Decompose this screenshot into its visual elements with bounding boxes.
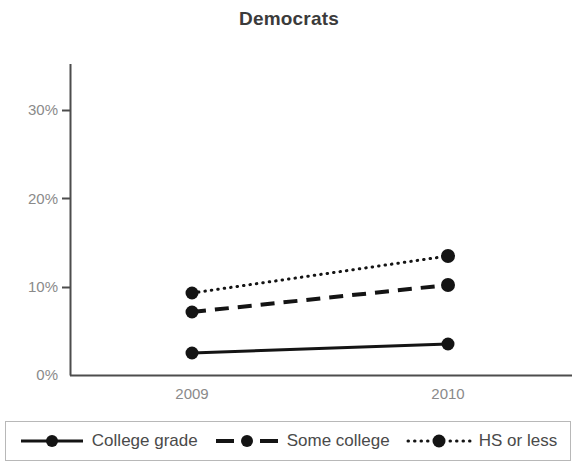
legend-label-college-grade: College grade: [92, 431, 198, 451]
chart-legend: College grade Some college HS or les: [5, 421, 571, 461]
chart-container: Democrats 30% 20% 10% 0% 2009 2010: [0, 0, 578, 469]
x-axis-tick-label-2009: 2009: [147, 385, 237, 402]
data-point-some-college-2009: [186, 306, 199, 319]
x-axis-tick-label-2010: 2010: [403, 385, 493, 402]
data-point-some-college-2010: [441, 278, 455, 292]
legend-item-some-college: Some college: [214, 431, 390, 451]
data-point-college-grade-2009: [186, 347, 199, 360]
legend-label-some-college: Some college: [287, 431, 390, 451]
legend-swatch-dashed-line-icon: [214, 433, 280, 449]
plot-area: [0, 0, 578, 415]
data-point-college-grade-2010: [442, 338, 455, 351]
data-point-hs-or-less-2010: [441, 249, 455, 263]
legend-swatch-solid-line-icon: [19, 433, 85, 449]
legend-label-hs-or-less: HS or less: [479, 431, 557, 451]
legend-swatch-dotted-line-icon: [406, 433, 472, 449]
series-line-college-grade: [192, 344, 448, 353]
y-axis-tick-label-30: 30%: [8, 101, 58, 118]
series-line-some-college: [192, 285, 448, 312]
data-point-hs-or-less-2009: [186, 287, 199, 300]
y-axis-tick-label-20: 20%: [8, 190, 58, 207]
y-axis-tick-label-10: 10%: [8, 278, 58, 295]
legend-item-college-grade: College grade: [19, 431, 198, 451]
legend-item-hs-or-less: HS or less: [406, 431, 557, 451]
y-axis-tick-label-0: 0%: [8, 366, 58, 383]
